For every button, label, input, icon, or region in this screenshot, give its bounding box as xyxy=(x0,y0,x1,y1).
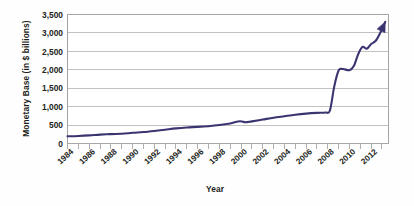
x-tick-label: 2002 xyxy=(251,147,271,166)
chart-canvas: 3,500 3,000 2,500 2,000 1,500 1,000 500 … xyxy=(0,0,414,206)
x-tick-label: 2010 xyxy=(338,147,358,166)
monetary-base-chart: 3,500 3,000 2,500 2,000 1,500 1,000 500 … xyxy=(0,0,414,206)
y-axis-tick-labels: 3,500 3,000 2,500 2,000 1,500 1,000 500 … xyxy=(42,10,63,149)
y-tick-label: 1,000 xyxy=(42,102,63,112)
x-tick-label: 2006 xyxy=(294,147,314,166)
y-tick-label: 0 xyxy=(58,139,63,149)
x-tick-label: 2004 xyxy=(273,147,293,166)
x-tick-label: 1998 xyxy=(208,147,228,166)
x-tick-label: 1996 xyxy=(186,147,206,166)
x-tick-label: 1992 xyxy=(143,147,163,166)
x-axis-tick-labels: 1984198619881990199219941996199820002002… xyxy=(56,147,380,166)
x-tick-label: 1984 xyxy=(56,147,76,166)
x-tick-label: 1988 xyxy=(99,147,119,166)
y-axis-title: Monetary Base (in $ billions) xyxy=(21,20,31,137)
y-tick-label: 1,500 xyxy=(42,83,63,93)
y-tick-label: 3,500 xyxy=(42,10,63,20)
x-tick-label: 2008 xyxy=(316,147,336,166)
x-tick-label: 2000 xyxy=(229,147,249,166)
x-tick-label: 2012 xyxy=(359,147,379,166)
y-tick-label: 500 xyxy=(49,120,63,130)
y-tick-label: 3,000 xyxy=(42,28,63,38)
x-tick-label: 1990 xyxy=(121,147,141,166)
x-axis-title: Year xyxy=(206,184,225,194)
x-axis-tickmarks xyxy=(68,144,382,149)
y-tick-label: 2,000 xyxy=(42,65,63,75)
y-tick-label: 2,500 xyxy=(42,47,63,57)
x-tick-label: 1994 xyxy=(164,147,184,166)
x-tick-label: 1986 xyxy=(77,147,97,166)
